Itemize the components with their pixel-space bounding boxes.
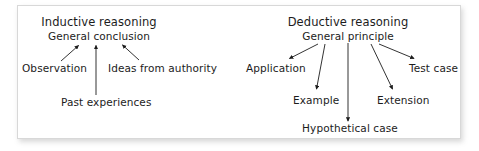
- deductive-title: Deductive reasoning: [288, 16, 409, 28]
- deductive-node-hypothetical-case: Hypothetical case: [302, 122, 398, 134]
- deductive-root-general-principle: General principle: [302, 30, 394, 42]
- inductive-root-general-conclusion: General conclusion: [48, 30, 150, 42]
- inductive-node-observation: Observation: [22, 62, 87, 74]
- deductive-node-test-case: Test case: [409, 62, 458, 74]
- figure-frame: Inductive reasoning General conclusion O…: [0, 0, 479, 151]
- inductive-title: Inductive reasoning: [41, 16, 156, 28]
- deductive-node-application: Application: [246, 62, 306, 74]
- deductive-node-extension: Extension: [377, 94, 429, 106]
- deductive-node-example: Example: [293, 94, 339, 106]
- inductive-node-ideas-from-authority: Ideas from authority: [108, 62, 217, 74]
- inductive-node-past-experiences: Past experiences: [61, 96, 152, 108]
